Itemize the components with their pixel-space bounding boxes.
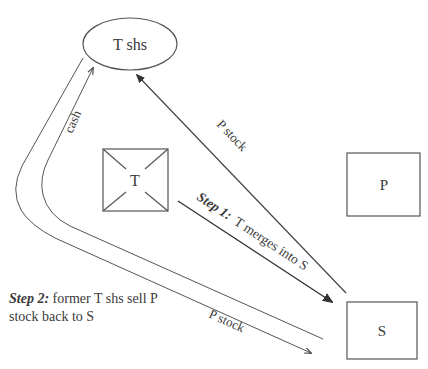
target-diagonal: [145, 192, 168, 211]
p-stock-label-upper: P stock: [214, 117, 251, 155]
step2-caption: Step 2: former T shs sell P stock back t…: [9, 290, 179, 326]
step2-label: Step 2:: [9, 291, 49, 306]
t-shareholders-label: T shs: [113, 36, 147, 53]
target-diagonal: [103, 149, 126, 169]
p-stock-label-lower: P stock: [207, 306, 248, 335]
merge-step-label: Step 1:: [194, 189, 234, 223]
cash-label: cash: [61, 108, 84, 136]
target-label: T: [130, 172, 140, 189]
merge-label: Step 1: T merges into S: [194, 189, 311, 273]
merge-arrow: [178, 201, 332, 302]
subsidiary-node: S: [347, 302, 417, 359]
target-diagonal: [145, 149, 168, 169]
t-shareholders-node: T shs: [83, 18, 177, 70]
parent-node: P: [347, 153, 420, 216]
subsidiary-label: S: [378, 323, 386, 339]
target-diagonal: [103, 192, 126, 211]
target-node: T: [103, 149, 168, 211]
parent-label: P: [380, 177, 388, 193]
